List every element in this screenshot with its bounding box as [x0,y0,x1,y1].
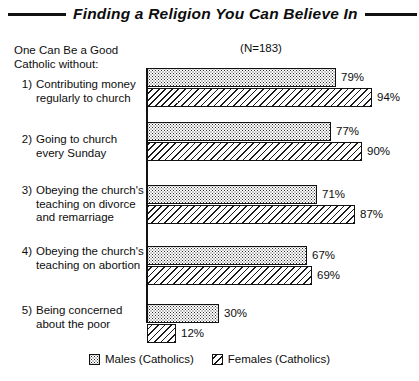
category-label-2: 2) Going to church every Sunday [8,133,144,160]
bar-males-4 [147,246,307,265]
bar-males-5 [147,304,219,323]
chart-legend: Males (Catholics) Females (Catholics) [0,353,419,365]
category-text-3: Obeying the church's teaching on divorce… [36,184,144,225]
category-number-1: 1) [22,78,36,105]
legend-label-females: Females (Catholics) [228,353,330,365]
bar-females-4 [147,266,312,285]
bar-value-males-2: 77% [336,122,359,141]
hatched-swatch-icon [212,354,223,365]
bar-value-females-3: 87% [360,205,383,224]
bar-value-males-3: 71% [322,185,345,204]
bar-males-1 [147,68,336,87]
bar-males-2 [147,122,331,141]
category-text-1: Contributing money regularly to church [36,78,144,105]
category-number-5: 5) [22,304,36,331]
plot-area: 79% 94% 77% 90% 71% 87% 67% 69% 30% 12% [146,68,408,332]
category-number-3: 3) [22,184,36,225]
legend-label-males: Males (Catholics) [105,353,194,365]
bar-females-5 [147,324,176,343]
sample-size-label: (N=183) [213,42,309,54]
question-stem: One Can Be a Good Catholic without: [14,44,144,71]
bar-value-females-1: 94% [377,88,400,107]
bar-females-1 [147,88,372,107]
chart-title-bar: Finding a Religion You Can Believe In [8,4,411,24]
category-text-4: Obeying the church's teaching on abortio… [36,245,144,272]
bar-value-males-4: 67% [312,246,335,265]
category-number-4: 4) [22,245,36,272]
title-rule-left [8,13,66,16]
legend-item-males: Males (Catholics) [89,353,194,365]
bar-females-2 [147,142,362,161]
page-title: Finding a Religion You Can Believe In [73,5,358,23]
category-text-2: Going to church every Sunday [36,133,144,160]
bar-value-females-5: 12% [181,324,204,343]
bar-value-males-1: 79% [341,68,364,87]
legend-item-females: Females (Catholics) [212,353,330,365]
category-label-5: 5) Being concerned about the poor [8,304,144,331]
dotted-swatch-icon [89,354,100,365]
bar-value-males-5: 30% [224,304,247,323]
bar-males-3 [147,185,317,204]
bar-value-females-4: 69% [317,266,340,285]
category-label-4: 4) Obeying the church's teaching on abor… [8,245,144,272]
title-rule-right [365,13,417,16]
category-label-1: 1) Contributing money regularly to churc… [8,78,144,105]
bar-value-females-2: 90% [367,142,390,161]
category-label-3: 3) Obeying the church's teaching on divo… [8,184,144,225]
category-text-5: Being concerned about the poor [36,304,144,331]
category-number-2: 2) [22,133,36,160]
bar-females-3 [147,205,355,224]
